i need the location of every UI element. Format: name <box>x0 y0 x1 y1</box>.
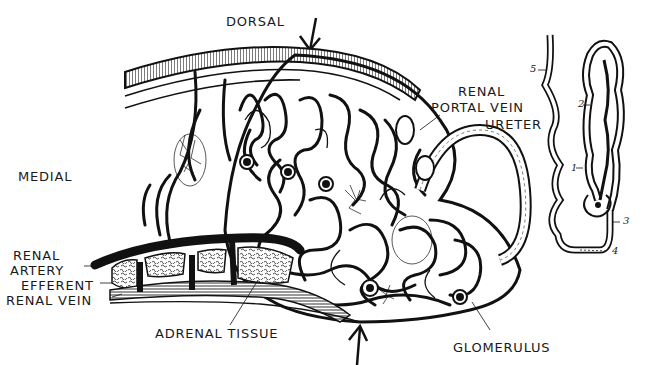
ureter <box>420 130 526 260</box>
efferent-renal-vein <box>110 281 360 322</box>
inset-number-4: 4 <box>612 245 618 256</box>
kidney-diagram <box>0 0 647 365</box>
label-renal-artery-2: ARTERY <box>10 264 64 278</box>
label-ureter: URETER <box>485 118 542 132</box>
label-adrenal-tissue: ADRENAL TISSUE <box>155 327 278 341</box>
label-dorsal: DORSAL <box>226 15 285 29</box>
inset-number-2: 2 <box>578 98 584 109</box>
label-renal-portal-vein-2: PORTAL VEIN <box>431 101 524 115</box>
label-renal-portal-vein-1: RENAL <box>458 85 505 99</box>
label-efferent-renal-vein-2: RENAL VEIN <box>6 294 92 308</box>
ventral-arrow <box>349 326 367 365</box>
inset-number-3: 3 <box>623 215 629 226</box>
label-efferent-renal-vein-1: EFFERENT <box>21 279 94 293</box>
label-glomerulus: GLOMERULUS <box>453 341 550 355</box>
inset-number-5: 5 <box>530 63 536 74</box>
nephron-inset <box>538 35 621 251</box>
label-medial: MEDIAL <box>18 170 72 184</box>
dorsal-arrow <box>300 18 320 50</box>
branching-vessels <box>143 72 230 242</box>
label-renal-artery-1: RENAL <box>13 249 60 263</box>
inset-number-1: 1 <box>571 162 577 173</box>
